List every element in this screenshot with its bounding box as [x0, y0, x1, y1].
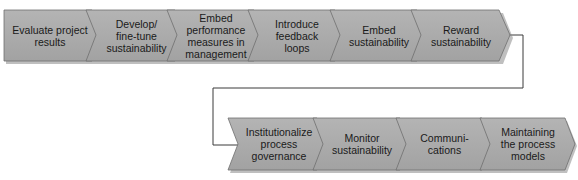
step-label-develop-fine-tune: Develop/ fine-tune sustainability [94, 10, 179, 61]
step-label-maintaining-process-models: Maintaining the process models [487, 118, 569, 170]
step-label-monitor-sustainability: Monitor sustainability [320, 118, 404, 170]
step-label-embed-sustainability: Embed sustainability [337, 10, 421, 61]
step-label-embed-performance: Embed performance measures in management [174, 8, 258, 63]
step-label-institutionalize-governance: Institutionalize process governance [236, 118, 322, 170]
step-label-reward-sustainability: Reward sustainability [418, 10, 504, 61]
step-label-introduce-feedback: Introduce feedback loops [255, 10, 339, 61]
step-label-evaluate-project-results: Evaluate project results [4, 10, 96, 61]
step-label-communications: Communi- cations [403, 118, 486, 170]
